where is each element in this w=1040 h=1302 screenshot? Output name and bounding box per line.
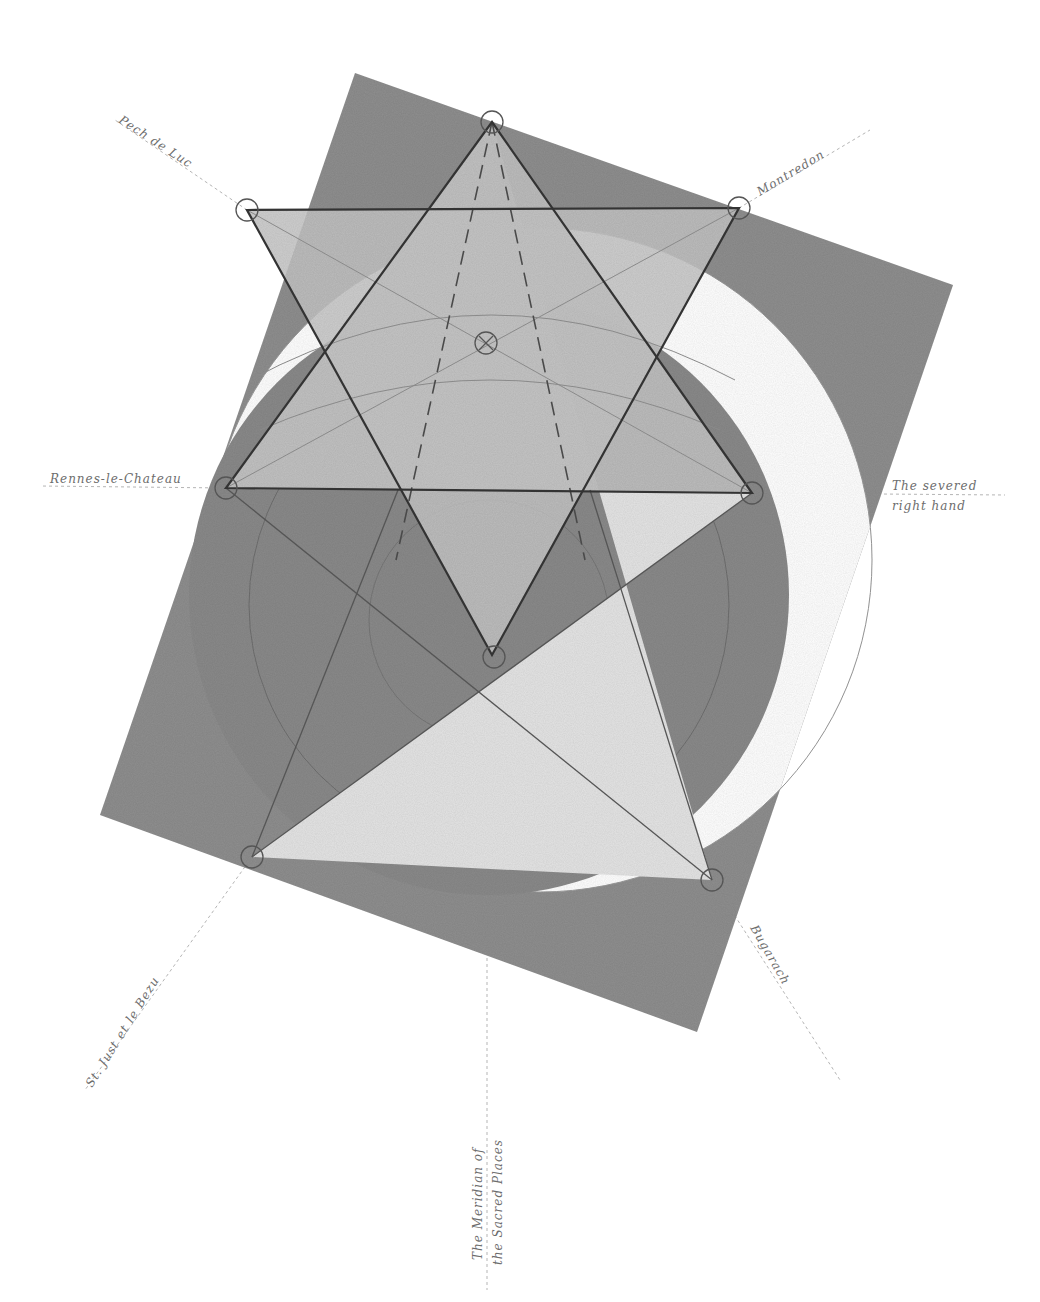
label-meridian-1: The Meridian of (471, 1146, 485, 1260)
line-rennes (40, 486, 226, 488)
label-rennes: Rennes-le-Chateau (49, 472, 182, 486)
label-bugarach: Bugarach (747, 922, 793, 988)
geometric-diagram: Pech de Luc Montredon Rennes-le-Chateau … (0, 0, 1040, 1302)
label-severed-hand-1: The severed (892, 479, 977, 493)
label-st-just: St. Just et le Bezu (83, 974, 162, 1090)
label-pech-de-luc: Pech de Luc (116, 112, 196, 171)
label-severed-hand-2: right hand (892, 499, 966, 513)
label-meridian-2: the Sacred Places (491, 1139, 505, 1265)
label-montredon: Montredon (753, 147, 827, 199)
